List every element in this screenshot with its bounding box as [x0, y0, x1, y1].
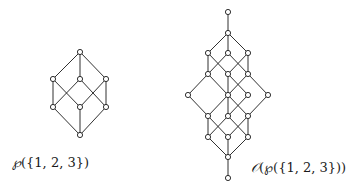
hasse-node — [50, 104, 55, 109]
hasse-node — [225, 71, 230, 76]
powerset-caption: ℘({1, 2, 3}) — [12, 155, 89, 170]
hasse-edge — [80, 52, 106, 79]
hasse-node — [225, 175, 230, 180]
hasse-edge — [80, 107, 106, 135]
powerset-caption-text: ({1, 2, 3}) — [21, 155, 89, 170]
hasse-edge — [188, 74, 208, 95]
hasse-node — [205, 134, 210, 139]
hasse-edge — [53, 52, 80, 79]
hasse-node — [245, 71, 250, 76]
hasse-node — [205, 71, 210, 76]
hasse-node — [245, 92, 250, 97]
hasse-edge — [208, 74, 228, 95]
hasse-edge — [228, 137, 248, 157]
powerset-hasse-edges — [53, 52, 106, 135]
downset-lattice-caption: 𝒪(℘({1, 2, 3})) — [251, 160, 346, 176]
powerset-hasse-nodes — [50, 49, 108, 137]
hasse-edge — [208, 137, 228, 157]
hasse-node — [245, 134, 250, 139]
hasse-edge — [248, 95, 268, 116]
hasse-node — [225, 134, 230, 139]
hasse-node — [77, 49, 82, 54]
hasse-node — [103, 76, 108, 81]
downset-lattice-hasse-nodes — [185, 9, 270, 180]
hasse-edge — [228, 33, 248, 53]
hasse-node — [245, 50, 250, 55]
hasse-node — [225, 9, 230, 14]
hasse-node — [205, 113, 210, 118]
hasse-node — [225, 50, 230, 55]
hasse-edge — [188, 95, 208, 116]
downset-caption-text: (℘({1, 2, 3})) — [259, 160, 346, 175]
hasse-node — [225, 154, 230, 159]
hasse-node — [265, 92, 270, 97]
hasse-edge — [248, 74, 268, 95]
hasse-node — [225, 113, 230, 118]
downset-symbol: 𝒪 — [251, 160, 259, 175]
hasse-node — [225, 30, 230, 35]
hasse-edge — [208, 33, 228, 53]
hasse-node — [225, 92, 230, 97]
hasse-edge — [208, 95, 228, 116]
hasse-node — [77, 132, 82, 137]
powerset-symbol: ℘ — [12, 155, 21, 170]
hasse-node — [245, 113, 250, 118]
hasse-node — [185, 92, 190, 97]
hasse-node — [77, 104, 82, 109]
hasse-node — [103, 104, 108, 109]
hasse-node — [50, 76, 55, 81]
hasse-node — [205, 50, 210, 55]
hasse-node — [77, 76, 82, 81]
hasse-edge — [53, 107, 80, 135]
